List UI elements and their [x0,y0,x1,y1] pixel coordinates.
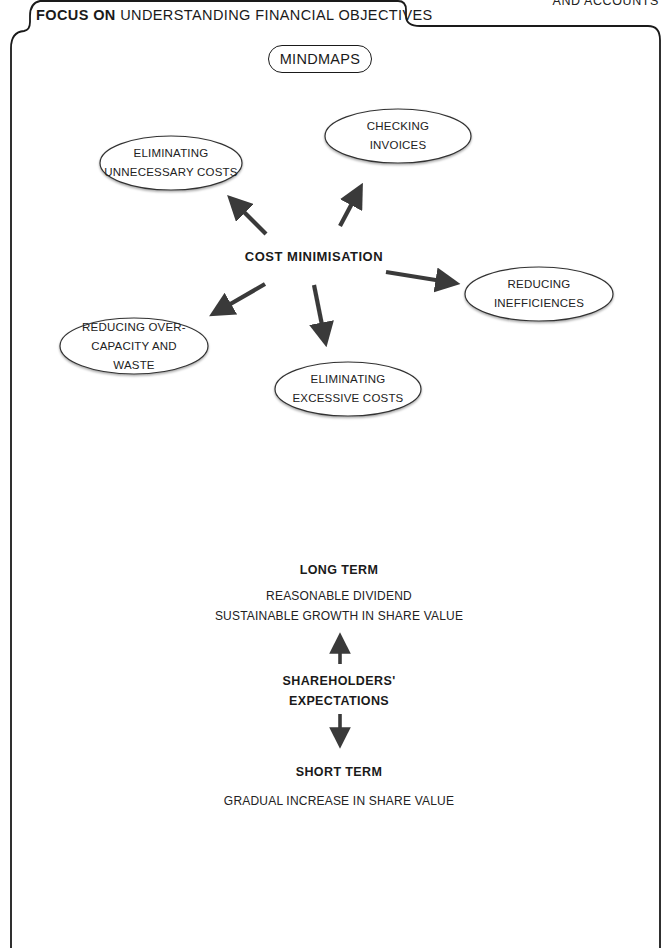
node-line: INEFFICIENCES [494,294,584,313]
chapter-tab-title: FOCUS ON UNDERSTANDING FINANCIAL OBJECTI… [36,7,433,23]
node-line: ELIMINATING [134,144,209,163]
node-reducing-inefficiences: REDUCING INEFFICIENCES [465,267,613,321]
center-line: EXPECTATIONS [139,691,539,711]
node-line: CHECKING [367,117,429,136]
corner-running-head: AND ACCOUNTS [552,0,659,8]
tab-title-bold: FOCUS ON [36,7,116,23]
node-eliminating-excessive-costs: ELIMINATING EXCESSIVE COSTS [275,362,421,416]
node-reducing-overcapacity-waste: REDUCING OVER- CAPACITY AND WASTE [60,318,208,374]
center-line: SHAREHOLDERS' [139,671,539,691]
long-term-item: SUSTAINABLE GROWTH IN SHARE VALUE [139,606,539,626]
mindmap-center-shareholders-expectations: SHAREHOLDERS' EXPECTATIONS [139,671,539,711]
section-label-pill: MINDMAPS [268,45,372,73]
cost-arrows [220,194,448,335]
mindmap-center-cost-minimisation: COST MINIMISATION [234,249,394,264]
node-line: INVOICES [370,136,427,155]
node-line: UNNECESSARY COSTS [104,163,237,182]
node-line: REDUCING OVER- [82,318,186,337]
tab-title-rest: UNDERSTANDING FINANCIAL OBJECTIVES [116,7,433,23]
node-line: REDUCING [508,275,571,294]
node-line: EXCESSIVE COSTS [292,389,403,408]
long-term-items: REASONABLE DIVIDEND SUSTAINABLE GROWTH I… [139,586,539,626]
long-term-item: REASONABLE DIVIDEND [139,586,539,606]
node-line: WASTE [113,356,154,375]
short-term-heading: SHORT TERM [139,765,539,779]
node-eliminating-unnecessary-costs: ELIMINATING UNNECESSARY COSTS [100,136,242,190]
node-line: ELIMINATING [311,370,386,389]
long-term-heading: LONG TERM [139,563,539,577]
node-line: CAPACITY AND [91,337,177,356]
node-checking-invoices: CHECKING INVOICES [325,109,471,163]
short-term-item: GRADUAL INCREASE IN SHARE VALUE [139,791,539,811]
